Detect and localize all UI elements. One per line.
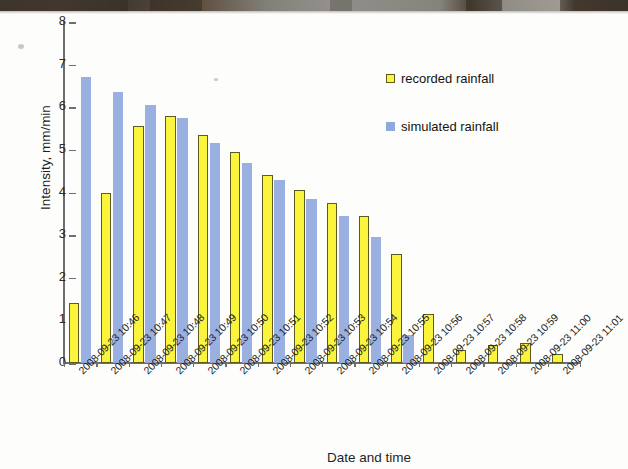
bar-recorded-rainfall: [198, 135, 209, 363]
legend-item-simulated-rainfall: simulated rainfall: [386, 116, 596, 136]
legend-swatch-recorded-icon: [386, 74, 395, 83]
bar-recorded-rainfall: [133, 126, 144, 363]
bar-recorded-rainfall: [69, 303, 80, 363]
bar-group: [64, 22, 96, 363]
x-axis-tick-mark: [64, 362, 65, 367]
chart-legend: recorded rainfall simulated rainfall: [386, 68, 596, 164]
y-axis-tick-label: 0: [36, 354, 66, 369]
legend-label-simulated: simulated rainfall: [401, 119, 499, 134]
legend-swatch-simulated-icon: [386, 122, 395, 131]
y-axis-tick-label: 1: [36, 311, 66, 326]
scan-edge-shadow: [0, 11, 628, 14]
chart-page: 876543210 Intensity, mm/min 2008-09-23 1…: [0, 0, 628, 469]
bar-group: [96, 22, 128, 363]
legend-item-recorded-rainfall: recorded rainfall: [386, 68, 596, 88]
y-axis-title: Intensity, mm/min: [38, 83, 53, 233]
bar-simulated-rainfall: [81, 77, 92, 363]
x-axis-title: Date and time: [0, 450, 628, 465]
legend-label-recorded: recorded rainfall: [401, 71, 494, 86]
y-axis-tick-label: 8: [36, 13, 66, 28]
y-axis-tick-label: 7: [36, 56, 66, 71]
bar-recorded-rainfall: [230, 152, 241, 363]
x-axis-title-text: Date and time: [327, 450, 411, 465]
y-axis-tick-label: 2: [36, 269, 66, 284]
scan-artifact-strip: [0, 0, 628, 11]
